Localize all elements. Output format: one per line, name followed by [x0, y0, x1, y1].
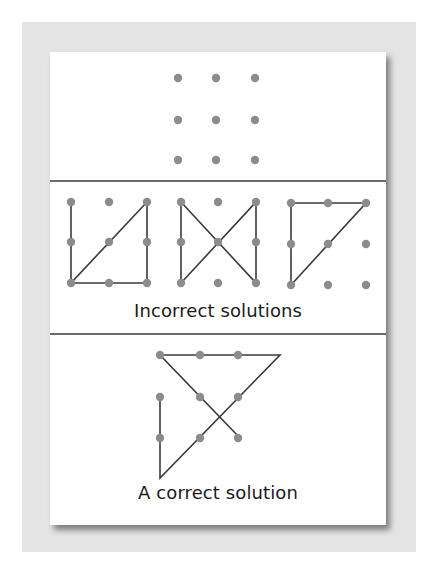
incorrect-solutions-label: Incorrect solutions	[50, 300, 386, 321]
dot	[252, 279, 260, 287]
dot	[196, 434, 204, 442]
dot	[287, 199, 295, 207]
dot	[177, 238, 185, 246]
dot	[251, 156, 259, 164]
dot	[212, 74, 220, 82]
dot	[177, 279, 185, 287]
dot	[196, 393, 204, 401]
dot	[177, 198, 185, 206]
dot	[362, 281, 370, 289]
dot	[67, 238, 75, 246]
dot	[252, 198, 260, 206]
dot	[324, 281, 332, 289]
dot	[234, 434, 242, 442]
dot	[212, 116, 220, 124]
dot	[143, 238, 151, 246]
dot	[214, 238, 222, 246]
dot	[174, 74, 182, 82]
dot	[234, 351, 242, 359]
dot	[105, 279, 113, 287]
dot	[362, 240, 370, 248]
dot	[362, 199, 370, 207]
dot	[287, 240, 295, 248]
dot	[252, 238, 260, 246]
dot	[105, 198, 113, 206]
dot	[234, 393, 242, 401]
incorrect-solution	[67, 198, 151, 287]
dot	[156, 434, 164, 442]
dot	[174, 116, 182, 124]
incorrect-solution	[287, 199, 370, 289]
dot	[287, 281, 295, 289]
correct-solution-panel	[156, 351, 280, 478]
dot	[324, 199, 332, 207]
puzzle-grid	[174, 74, 259, 164]
dot	[143, 198, 151, 206]
dot	[174, 156, 182, 164]
correct-solution-label: A correct solution	[50, 482, 386, 503]
dot	[143, 279, 151, 287]
dot	[156, 393, 164, 401]
dot	[251, 116, 259, 124]
dot	[214, 279, 222, 287]
incorrect-solutions-panels	[67, 198, 370, 289]
dot	[324, 240, 332, 248]
dot	[251, 74, 259, 82]
dot	[214, 198, 222, 206]
dot	[156, 351, 164, 359]
incorrect-solution	[177, 198, 260, 287]
dot	[196, 351, 204, 359]
solution-line	[160, 355, 280, 478]
dot	[67, 279, 75, 287]
dot	[105, 238, 113, 246]
dot	[67, 198, 75, 206]
dot	[212, 156, 220, 164]
